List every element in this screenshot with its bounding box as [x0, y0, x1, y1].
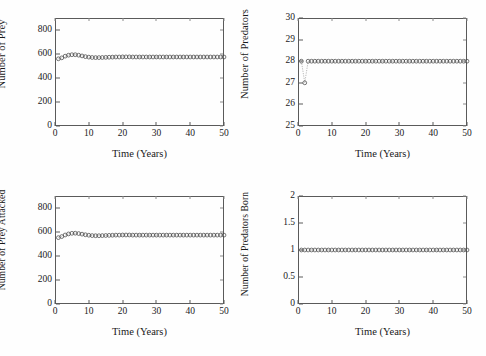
y-tick-label: 29	[286, 35, 296, 45]
x-axis-label-prey: Time (Years)	[55, 148, 224, 159]
y-tick-mark	[56, 232, 60, 233]
y-tick-mark-right	[463, 196, 466, 197]
x-tick-label: 40	[428, 129, 438, 139]
y-tick-mark-right	[463, 39, 466, 40]
y-tick-mark	[299, 39, 303, 40]
x-tick-label: 50	[462, 129, 472, 139]
series-predators	[298, 18, 467, 126]
y-tick-mark-right	[463, 61, 466, 62]
y-tick-mark-right	[220, 280, 223, 281]
y-tick-label: 600	[38, 227, 52, 237]
x-tick-label: 50	[462, 307, 472, 317]
y-tick-mark	[56, 78, 60, 79]
panel-predators-born: Number of Predators Born 00.511.52 01020…	[243, 178, 486, 356]
y-tick-label: 27	[286, 78, 296, 88]
y-tick-label: 600	[38, 49, 52, 59]
series-prey-attacked	[55, 196, 224, 304]
y-tick-mark	[56, 280, 60, 281]
y-tick-label: 28	[286, 56, 296, 66]
y-tick-mark-right	[220, 54, 223, 55]
y-tick-mark	[299, 18, 303, 19]
y-tick-mark	[299, 126, 303, 127]
y-tick-mark	[299, 304, 303, 305]
y-tick-label: 800	[38, 203, 52, 213]
x-tick-label: 40	[185, 307, 195, 317]
y-axis-label-prey: Number of Prey	[0, 0, 10, 126]
y-tick-label: 0	[290, 299, 295, 309]
series-predators-born	[298, 196, 467, 304]
x-tick-label: 20	[361, 129, 371, 139]
y-tick-mark	[56, 102, 60, 103]
x-tick-label: 10	[84, 307, 94, 317]
y-tick-mark-right	[463, 223, 466, 224]
x-tick-label: 30	[152, 129, 162, 139]
y-tick-label: 0.5	[283, 272, 295, 282]
y-tick-mark-right	[463, 18, 466, 19]
y-tick-mark-right	[463, 104, 466, 105]
x-tick-label: 0	[296, 129, 301, 139]
x-tick-label: 40	[185, 129, 195, 139]
x-tick-label: 10	[84, 129, 94, 139]
y-tick-mark-right	[220, 304, 223, 305]
figure-grid: Number of Prey 0200400600800 01020304050…	[0, 0, 486, 356]
y-tick-mark-right	[220, 208, 223, 209]
panel-predators: Number of Predators 252627282930 0102030…	[243, 0, 486, 178]
y-tick-mark-right	[220, 256, 223, 257]
y-tick-label: 200	[38, 97, 52, 107]
x-tick-label: 0	[53, 307, 58, 317]
y-tick-mark-right	[463, 277, 466, 278]
x-tick-label: 10	[327, 307, 337, 317]
y-tick-mark-right	[220, 126, 223, 127]
y-tick-mark-right	[463, 304, 466, 305]
y-tick-label: 1	[290, 245, 295, 255]
y-tick-label: 400	[38, 73, 52, 83]
y-tick-mark	[299, 196, 303, 197]
y-tick-label: 30	[286, 13, 296, 23]
x-tick-label: 10	[327, 129, 337, 139]
x-tick-label: 50	[219, 307, 229, 317]
x-tick-label: 30	[152, 307, 162, 317]
y-tick-label: 200	[38, 275, 52, 285]
y-tick-label: 26	[286, 100, 296, 110]
y-tick-mark	[56, 126, 60, 127]
y-tick-mark-right	[463, 250, 466, 251]
y-tick-label: 1.5	[283, 218, 295, 228]
y-tick-mark-right	[220, 30, 223, 31]
panel-prey: Number of Prey 0200400600800 01020304050…	[0, 0, 243, 178]
y-tick-mark	[299, 82, 303, 83]
y-tick-mark	[56, 256, 60, 257]
y-tick-label: 2	[290, 191, 295, 201]
x-axis-label-predators: Time (Years)	[298, 148, 467, 159]
y-tick-mark	[56, 304, 60, 305]
y-tick-mark	[299, 61, 303, 62]
y-tick-label: 0	[47, 299, 52, 309]
y-tick-mark	[299, 104, 303, 105]
y-axis-label-prey-attacked: Number of Prey Attacked	[0, 168, 10, 312]
x-tick-label: 20	[118, 307, 128, 317]
x-axis-label-predators-born: Time (Years)	[298, 326, 467, 337]
x-tick-label: 50	[219, 129, 229, 139]
series-prey	[55, 18, 224, 126]
x-tick-label: 30	[395, 129, 405, 139]
y-tick-label: 25	[286, 121, 296, 131]
y-tick-mark	[56, 208, 60, 209]
y-tick-mark-right	[220, 232, 223, 233]
x-axis-label-prey-attacked: Time (Years)	[55, 326, 224, 337]
y-tick-label: 0	[47, 121, 52, 131]
y-tick-label: 400	[38, 251, 52, 261]
y-tick-label: 800	[38, 25, 52, 35]
x-tick-label: 0	[53, 129, 58, 139]
y-tick-mark	[299, 250, 303, 251]
y-tick-mark	[299, 223, 303, 224]
y-tick-mark	[299, 277, 303, 278]
x-tick-label: 30	[395, 307, 405, 317]
series-line	[301, 61, 467, 83]
y-tick-mark	[56, 30, 60, 31]
x-tick-label: 0	[296, 307, 301, 317]
y-tick-mark	[56, 54, 60, 55]
y-tick-mark-right	[220, 102, 223, 103]
y-tick-mark-right	[463, 126, 466, 127]
y-tick-mark-right	[220, 78, 223, 79]
x-tick-label: 20	[118, 129, 128, 139]
y-tick-mark-right	[463, 82, 466, 83]
